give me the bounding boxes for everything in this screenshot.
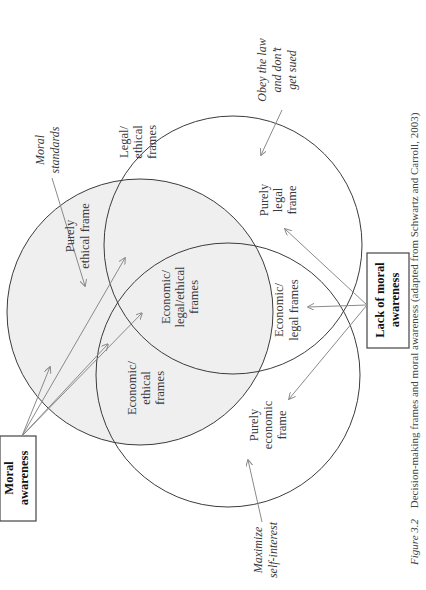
svg-text:Moral: Moral: [33, 134, 47, 166]
svg-text:frames: frames: [145, 125, 159, 159]
svg-text:Moral: Moral: [2, 461, 16, 495]
svg-text:standards: standards: [48, 126, 62, 173]
svg-text:and don’t: and don’t: [270, 47, 284, 93]
svg-text:ethical: ethical: [139, 371, 153, 405]
obey-law-arrow: [261, 110, 282, 155]
svg-text:economic: economic: [261, 400, 275, 449]
caption-text: Decision-making frames and moral awarene…: [408, 112, 421, 508]
svg-text:frames: frames: [187, 280, 201, 314]
annotation-moral-standards: Moral standards: [33, 126, 62, 173]
svg-text:Purely: Purely: [247, 408, 261, 441]
diagram-canvas: Purely ethical frame Legal/ ethical fram…: [0, 0, 426, 590]
svg-text:Lack of moral: Lack of moral: [373, 262, 387, 338]
svg-text:Obey the law: Obey the law: [255, 38, 269, 101]
svg-text:frames: frames: [153, 371, 167, 405]
svg-text:awareness: awareness: [17, 451, 31, 506]
maximize-arrow: [248, 460, 262, 522]
svg-text:Legal/: Legal/: [117, 126, 131, 158]
svg-text:Economic/: Economic/: [159, 269, 173, 324]
svg-text:ethical: ethical: [131, 125, 145, 159]
svg-text:frame: frame: [275, 410, 289, 440]
svg-text:Economic/: Economic/: [272, 282, 286, 337]
svg-text:legal: legal: [271, 187, 285, 212]
svg-text:Economic/: Economic/: [125, 360, 139, 415]
svg-text:Maximize: Maximize: [251, 526, 265, 574]
annotation-maximize: Maximize self-interest: [251, 521, 280, 578]
svg-text:Purely: Purely: [63, 219, 77, 252]
caption-label: Figure 3.2: [408, 518, 420, 566]
lack-moral-awareness-label: Lack of moral awareness: [373, 262, 402, 338]
svg-text:get sued: get sued: [285, 49, 299, 90]
svg-text:legal frames: legal frames: [287, 279, 301, 341]
svg-text:frame: frame: [285, 185, 299, 215]
label-purely-legal: Purely legal frame: [257, 183, 299, 216]
svg-text:ethical frame: ethical frame: [78, 203, 92, 269]
label-economic-legal: Economic/ legal frames: [272, 279, 301, 341]
svg-text:awareness: awareness: [388, 273, 402, 328]
svg-text:legal/ethical: legal/ethical: [173, 266, 187, 328]
label-purely-economic: Purely economic frame: [247, 400, 289, 449]
label-legal-ethical: Legal/ ethical frames: [117, 125, 159, 159]
annotation-obey-law: Obey the law and don’t get sued: [255, 38, 299, 101]
svg-text:Purely: Purely: [257, 183, 271, 216]
svg-text:Figure 3.2 Decision-maki: Figure 3.2 Decision-making frames and mo…: [408, 112, 421, 566]
figure-caption: Figure 3.2 Decision-making frames and mo…: [408, 112, 421, 566]
svg-text:self-interest: self-interest: [266, 521, 280, 578]
